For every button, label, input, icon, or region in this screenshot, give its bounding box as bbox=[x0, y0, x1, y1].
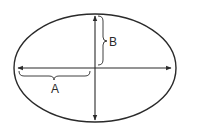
label-a: A bbox=[51, 82, 59, 96]
label-b: B bbox=[109, 35, 117, 49]
background bbox=[0, 0, 210, 129]
ellipse-diagram: B A bbox=[0, 0, 210, 129]
